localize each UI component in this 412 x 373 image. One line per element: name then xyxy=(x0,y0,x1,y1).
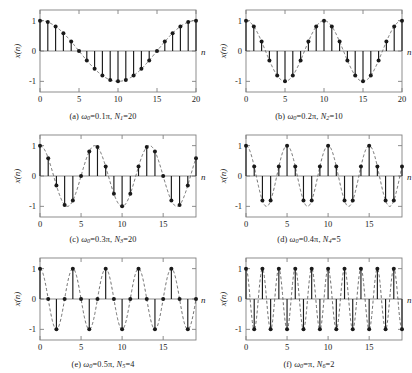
data-point-marker xyxy=(137,165,141,169)
data-point-marker xyxy=(178,297,182,301)
data-point-marker xyxy=(112,297,116,301)
data-point-marker xyxy=(104,267,108,271)
x-tick-label: 0 xyxy=(244,342,248,352)
caption-index: (e) xyxy=(72,360,84,369)
data-point-marker xyxy=(124,78,128,82)
data-point-marker xyxy=(38,267,42,271)
data-point-marker xyxy=(322,19,326,23)
subplot-caption-a: (a) ω0=0.1π, N1=20 xyxy=(0,112,206,121)
data-point-marker xyxy=(260,199,264,203)
data-point-marker xyxy=(153,149,157,153)
caption-period-value: =20 xyxy=(123,112,136,121)
x-axis-label: n xyxy=(407,47,412,57)
data-point-marker xyxy=(267,58,271,62)
caption-period-value: =4 xyxy=(125,360,134,369)
y-tick-label: -1 xyxy=(235,201,242,211)
y-tick-label: -1 xyxy=(29,76,36,86)
caption-period-value: =2 xyxy=(326,360,335,369)
y-axis-label: x(n) xyxy=(12,292,22,308)
data-point-marker xyxy=(384,199,388,203)
data-point-marker xyxy=(351,327,355,331)
data-point-marker xyxy=(77,49,81,53)
data-point-marker xyxy=(301,327,305,331)
y-tick-label: 1 xyxy=(238,16,242,26)
y-tick-label: 1 xyxy=(32,264,36,274)
data-point-marker xyxy=(306,40,310,44)
data-point-marker xyxy=(334,165,338,169)
data-point-marker xyxy=(269,327,273,331)
data-point-marker xyxy=(343,267,347,271)
data-point-marker xyxy=(54,327,58,331)
data-point-marker xyxy=(269,199,273,203)
data-point-marker xyxy=(326,144,330,148)
subplot-a: 0510152010-1nx(n)(a) ω0=0.1π, N1=20 xyxy=(0,0,206,125)
data-point-marker xyxy=(277,267,281,271)
x-tick-label: 15 xyxy=(359,94,368,104)
data-point-marker xyxy=(293,267,297,271)
data-point-marker xyxy=(318,165,322,169)
data-point-marker xyxy=(299,58,303,62)
data-point-marker xyxy=(93,67,97,71)
x-tick-label: 10 xyxy=(118,342,127,352)
data-point-marker xyxy=(71,267,75,271)
x-tick-label: 15 xyxy=(365,219,374,229)
data-point-marker xyxy=(54,24,58,28)
data-point-marker xyxy=(369,74,373,78)
data-point-marker xyxy=(128,192,132,196)
plot-area-e: 05101510-1nx(n) xyxy=(0,248,206,373)
data-point-marker xyxy=(194,156,198,160)
data-point-marker xyxy=(178,203,182,207)
data-point-marker xyxy=(116,79,120,83)
x-tick-label: 0 xyxy=(244,219,248,229)
x-tick-label: 15 xyxy=(159,219,168,229)
data-point-marker xyxy=(132,74,136,78)
data-point-marker xyxy=(95,145,99,149)
x-tick-label: 0 xyxy=(244,94,248,104)
data-point-marker xyxy=(87,327,91,331)
x-tick-label: 5 xyxy=(283,94,287,104)
data-point-marker xyxy=(244,144,248,148)
data-point-marker xyxy=(171,31,175,35)
data-point-marker xyxy=(384,40,388,44)
data-point-marker xyxy=(169,199,173,203)
y-axis-label: x(n) xyxy=(12,169,22,185)
data-point-marker xyxy=(345,58,349,62)
y-axis-label-group: x(n) xyxy=(218,292,228,308)
data-point-marker xyxy=(87,149,91,153)
data-point-marker xyxy=(63,203,67,207)
x-tick-label: 5 xyxy=(79,342,83,352)
data-point-marker xyxy=(330,24,334,28)
data-point-marker xyxy=(252,327,256,331)
subplot-b: 0510152010-1nx(n)(b) ω0=0.2π, N2=10 xyxy=(206,0,412,125)
y-axis-label-group: x(n) xyxy=(12,169,22,185)
data-point-marker xyxy=(104,165,108,169)
plot-area-f: 05101510-1nx(n) xyxy=(206,248,412,373)
y-axis-label: x(n) xyxy=(218,292,228,308)
subplot-f: 05101510-1nx(n)(f) ω0=π, N6=2 xyxy=(206,248,412,373)
data-point-marker xyxy=(353,74,357,78)
data-point-marker xyxy=(46,156,50,160)
data-point-marker xyxy=(145,145,149,149)
data-point-marker xyxy=(128,297,132,301)
data-point-marker xyxy=(392,199,396,203)
caption-index: (b) xyxy=(275,112,287,121)
subplot-caption-f: (f) ω0=π, N6=2 xyxy=(206,360,412,369)
subplot-e: 05101510-1nx(n)(e) ω0=0.5π, N5=4 xyxy=(0,248,206,373)
y-tick-label: 1 xyxy=(32,141,36,151)
data-point-marker xyxy=(244,267,248,271)
y-axis-label-group: x(n) xyxy=(218,169,228,185)
data-point-marker xyxy=(367,144,371,148)
plot-area-c: 05101510-1nx(n) xyxy=(0,125,206,248)
data-point-marker xyxy=(260,267,264,271)
data-point-marker xyxy=(137,267,141,271)
plot-area-d: 05101510-1nx(n) xyxy=(206,125,412,248)
data-point-marker xyxy=(277,165,281,169)
data-point-marker xyxy=(161,297,165,301)
y-tick-label: -1 xyxy=(235,324,242,334)
data-point-marker xyxy=(400,165,404,169)
y-axis-label-group: x(n) xyxy=(218,44,228,60)
data-point-marker xyxy=(38,19,42,23)
y-tick-label: 0 xyxy=(238,46,242,56)
data-point-marker xyxy=(54,183,58,187)
data-point-marker xyxy=(186,183,190,187)
